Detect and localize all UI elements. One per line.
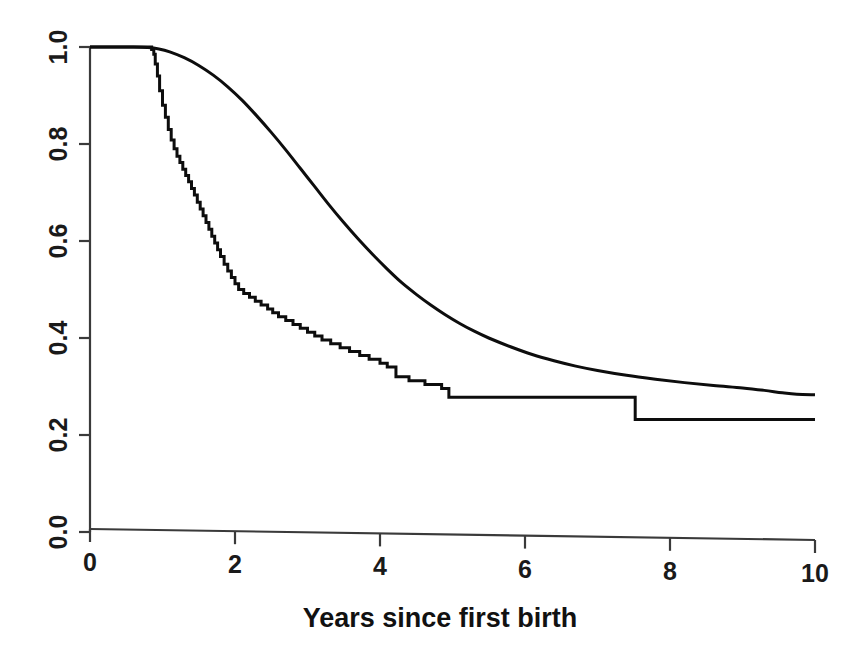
y-tick-label: 0.4 [44,321,72,356]
chart-canvas: 0.00.20.40.60.81.0 0246810 Years since f… [0,0,861,651]
x-axis-tick-labels: 0246810 [83,548,829,587]
series-kaplan-meier-step-curve [90,47,815,419]
x-tick-label: 10 [801,559,829,587]
series-smooth-model-curve [90,47,815,395]
x-tick-label: 8 [663,557,677,585]
x-tick-label: 4 [373,552,387,580]
y-axis-ticks [79,47,90,532]
y-tick-label: 0.6 [44,224,72,259]
y-tick-label: 1.0 [44,30,72,65]
y-tick-label: 0.0 [44,515,72,550]
x-axis-title: Years since first birth [303,603,578,633]
x-axis-line [90,529,815,540]
data-series-group [90,47,815,420]
y-axis-tick-labels: 0.00.20.40.60.81.0 [44,30,72,550]
survival-curve-figure: 0.00.20.40.60.81.0 0246810 Years since f… [0,0,861,651]
y-tick-label: 0.8 [44,127,72,162]
x-tick-label: 0 [83,548,97,576]
x-axis-ticks [90,529,815,553]
y-tick-label: 0.2 [44,418,72,453]
x-tick-label: 6 [518,555,532,583]
x-tick-label: 2 [228,550,242,578]
